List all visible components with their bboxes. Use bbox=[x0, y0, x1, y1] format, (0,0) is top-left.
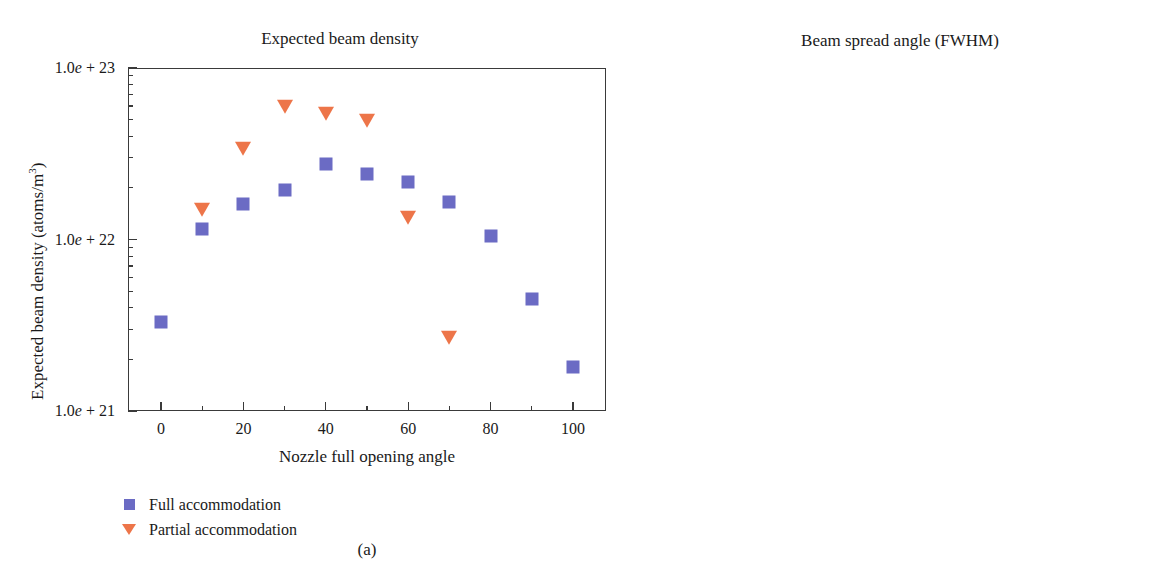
chart-a-y-tick-major bbox=[128, 410, 137, 411]
chart-a-y-tick-minor bbox=[128, 75, 133, 76]
chart-a-y-tick-minor bbox=[128, 359, 133, 360]
chart-a-x-axis-label: Nozzle full opening angle bbox=[128, 447, 606, 467]
legend-item[interactable]: Partial accommodation bbox=[118, 517, 297, 542]
chart-a-x-tick-label: 20 bbox=[235, 420, 251, 438]
chart-a-point-partial-accommodation bbox=[400, 211, 416, 225]
chart-a-y-tick-minor bbox=[128, 94, 133, 95]
chart-a-y-tick-minor bbox=[128, 256, 133, 257]
chart-a-x-tick-major bbox=[243, 402, 244, 411]
chart-a-legend: Full accommodationPartial accommodation bbox=[118, 492, 297, 542]
chart-a-x-tick-major bbox=[572, 402, 573, 411]
chart-b-title: Beam spread angle (FWHM) bbox=[640, 30, 1160, 52]
chart-a-y-tick-label: 1.0e + 21 bbox=[8, 402, 115, 420]
chart-a-y-tick-minor bbox=[128, 105, 133, 106]
chart-a-y-axis-label-tail: ) bbox=[28, 163, 47, 169]
chart-a-x-tick-label: 80 bbox=[483, 420, 499, 438]
panel-a-caption: (a) bbox=[128, 540, 606, 560]
chart-a-y-tick-minor bbox=[128, 119, 133, 120]
chart-a-y-tick-minor bbox=[128, 187, 133, 188]
legend-square-icon bbox=[118, 499, 140, 510]
figure-container: Expected beam density (at 1000 nozzle di… bbox=[0, 0, 1172, 572]
legend-item-label: Full accommodation bbox=[149, 496, 281, 514]
chart-a-point-full-accommodation bbox=[319, 158, 332, 171]
chart-a-x-tick-major bbox=[408, 402, 409, 411]
chart-a-y-tick-minor bbox=[128, 265, 133, 266]
legend-marker bbox=[122, 524, 136, 535]
chart-a-point-full-accommodation bbox=[484, 229, 497, 242]
chart-a-x-tick-major bbox=[325, 402, 326, 411]
chart-a-x-tick-minor bbox=[531, 406, 532, 411]
chart-a-x-tick-minor bbox=[449, 406, 450, 411]
chart-a-point-full-accommodation bbox=[196, 223, 209, 236]
chart-a-y-tick-minor bbox=[128, 329, 133, 330]
panel-b: Beam spread angle (FWHM) Beam full angle… bbox=[620, 0, 1172, 572]
chart-a-x-tick-minor bbox=[284, 406, 285, 411]
chart-a-x-tick-label: 100 bbox=[561, 420, 585, 438]
chart-a-y-tick-minor bbox=[128, 307, 133, 308]
chart-a-y-tick-minor bbox=[128, 136, 133, 137]
legend-marker bbox=[124, 499, 135, 510]
chart-a-point-partial-accommodation bbox=[359, 113, 375, 127]
chart-a-point-full-accommodation bbox=[278, 183, 291, 196]
chart-a-y-tick-minor bbox=[128, 291, 133, 292]
chart-a-x-tick-minor bbox=[366, 406, 367, 411]
chart-a-y-tick-minor bbox=[128, 247, 133, 248]
chart-a-point-full-accommodation bbox=[361, 168, 374, 181]
chart-a-y-tick-minor bbox=[128, 84, 133, 85]
chart-a-point-partial-accommodation bbox=[235, 142, 251, 156]
chart-a-y-axis-label-text: Expected beam density (atoms/m bbox=[28, 174, 47, 400]
legend-item-label: Partial accommodation bbox=[149, 521, 297, 539]
chart-a-x-tick-major bbox=[490, 402, 491, 411]
chart-a-point-partial-accommodation bbox=[441, 331, 457, 345]
chart-a-point-full-accommodation bbox=[443, 196, 456, 209]
legend-triangle-icon bbox=[118, 524, 140, 535]
chart-a-point-full-accommodation bbox=[525, 292, 538, 305]
chart-a-y-tick-major bbox=[128, 67, 137, 68]
chart-a-y-axis-label: Expected beam density (atoms/m3) bbox=[26, 163, 48, 400]
chart-a-x-tick-label: 0 bbox=[157, 420, 165, 438]
chart-a-point-partial-accommodation bbox=[277, 100, 293, 114]
chart-a-point-full-accommodation bbox=[567, 361, 580, 374]
chart-a-x-tick-label: 40 bbox=[318, 420, 334, 438]
chart-a-y-tick-minor bbox=[128, 277, 133, 278]
chart-a-point-full-accommodation bbox=[402, 176, 415, 189]
chart-a-y-tick-major bbox=[128, 239, 137, 240]
chart-a-x-tick-minor bbox=[202, 406, 203, 411]
chart-a-y-tick-minor bbox=[128, 157, 133, 158]
chart-a-point-partial-accommodation bbox=[194, 203, 210, 217]
panel-a: Expected beam density (at 1000 nozzle di… bbox=[0, 0, 620, 572]
chart-a-title-line1: Expected beam density bbox=[60, 28, 620, 50]
chart-a-y-tick-label: 1.0e + 23 bbox=[8, 59, 115, 77]
chart-a-x-tick-major bbox=[160, 402, 161, 411]
chart-a-point-partial-accommodation bbox=[318, 106, 334, 120]
chart-a-y-axis-label-sup: 3 bbox=[26, 168, 38, 174]
chart-a-y-tick-label: 1.0e + 22 bbox=[8, 231, 115, 249]
chart-a-point-full-accommodation bbox=[154, 316, 167, 329]
chart-a-point-full-accommodation bbox=[237, 198, 250, 211]
legend-item[interactable]: Full accommodation bbox=[118, 492, 297, 517]
chart-a-x-tick-label: 60 bbox=[400, 420, 416, 438]
